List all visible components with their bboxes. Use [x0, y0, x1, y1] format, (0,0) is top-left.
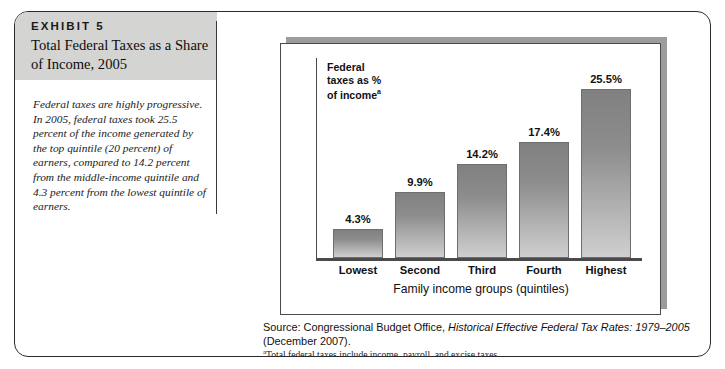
bar-value-label: 14.2%: [451, 148, 513, 160]
bar-lowest: [333, 229, 383, 258]
bar-slot: 17.4%: [519, 72, 569, 258]
bar-value-label: 25.5%: [575, 73, 637, 85]
source-title: Historical Effective Federal Tax Rates: …: [448, 321, 690, 333]
bar-slot: 25.5%: [581, 72, 631, 258]
x-tick-second: Second: [389, 264, 451, 276]
bar-fourth: [519, 142, 569, 258]
y-axis-line: [316, 58, 317, 259]
x-tick-highest: Highest: [575, 264, 637, 276]
column-divider: [216, 21, 217, 214]
chart-plot-area: 4.3%9.9%14.2%17.4%25.5% LowestSecondThir…: [316, 58, 646, 273]
x-tick-lowest: Lowest: [327, 264, 389, 276]
source-suffix: (December 2007).: [263, 335, 351, 347]
bar-third: [457, 164, 507, 258]
x-tick-fourth: Fourth: [513, 264, 575, 276]
bar-value-label: 17.4%: [513, 126, 575, 138]
exhibit-caption: Federal taxes are highly progressive. In…: [33, 97, 207, 214]
footnote: aTotal federal taxes include income, pay…: [263, 348, 693, 357]
bar-slot: 4.3%: [333, 72, 383, 258]
bar-second: [395, 192, 445, 258]
source-note: Source: Congressional Budget Office, His…: [263, 320, 693, 348]
exhibit-page: EXHIBIT 5 Total Federal Taxes as a Share…: [14, 11, 711, 357]
bar-value-label: 4.3%: [327, 213, 389, 225]
exhibit-title: Total Federal Taxes as a Share of Income…: [31, 36, 211, 73]
exhibit-number-label: EXHIBIT 5: [31, 20, 105, 32]
exhibit-left-column: EXHIBIT 5 Total Federal Taxes as a Share…: [15, 12, 217, 357]
source-prefix: Source: Congressional Budget Office,: [263, 321, 448, 333]
x-tick-third: Third: [451, 264, 513, 276]
bar-slot: 9.9%: [395, 72, 445, 258]
chart-container: Federal taxes as % of incomea 4.3%9.9%14…: [280, 43, 661, 315]
bar-slot: 14.2%: [457, 72, 507, 258]
x-axis-line: [316, 258, 642, 261]
x-axis-title: Family income groups (quintiles): [316, 282, 646, 296]
bar-highest: [581, 89, 631, 258]
footnote-text: Total federal taxes include income, payr…: [266, 349, 499, 357]
bar-value-label: 9.9%: [389, 176, 451, 188]
